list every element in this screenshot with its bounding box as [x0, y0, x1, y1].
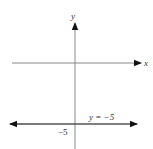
coordinate-plane: y x y = −5 −5 [0, 0, 153, 149]
line-label: y = −5 [88, 112, 115, 122]
x-axis-label: x [143, 58, 148, 68]
y-axis-label: y [70, 11, 75, 21]
intercept-label: −5 [58, 127, 68, 137]
